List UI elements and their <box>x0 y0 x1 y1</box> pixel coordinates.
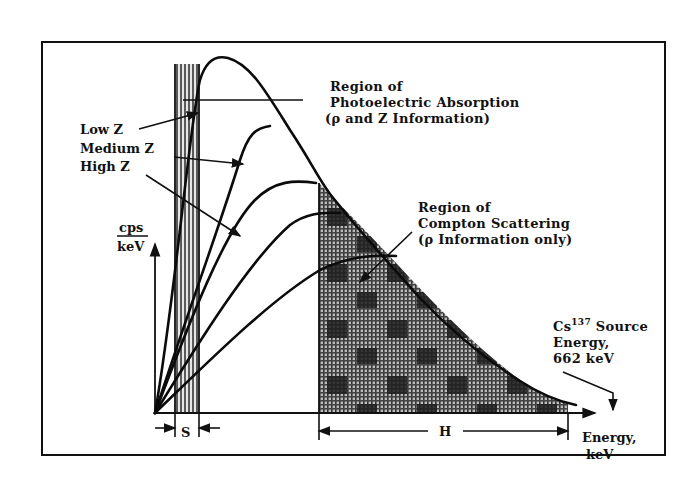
y-axis-label-numerator: cps <box>119 220 143 235</box>
photoelectric-label-line3: (ρ and Z Information) <box>325 111 490 126</box>
compton-label-line1: Region of <box>418 200 492 215</box>
x-axis-label-line1: Energy, <box>582 430 636 445</box>
photoelectric-label-line1: Region of <box>330 79 404 94</box>
spectrum-diagram: Region of Photoelectric Absorption (ρ an… <box>0 0 697 501</box>
high-z-label: High Z <box>80 159 130 174</box>
h-window-label: H <box>439 424 451 439</box>
x-axis-label-line2: keV <box>586 447 614 462</box>
y-axis-label-denominator: keV <box>117 239 145 254</box>
compton-label-line2: Compton Scattering <box>418 216 570 231</box>
medium-z-label: Medium Z <box>80 141 154 156</box>
photoelectric-label-line2: Photoelectric Absorption <box>330 95 520 110</box>
source-label-line3: 662 keV <box>553 351 615 366</box>
source-label-line2: Energy, <box>553 335 610 350</box>
s-window-label: S <box>181 425 190 440</box>
low-z-label: Low Z <box>80 122 124 137</box>
compton-label-line3: (ρ Information only) <box>418 232 573 247</box>
source-label-line1: Cs137 Source <box>553 317 648 334</box>
